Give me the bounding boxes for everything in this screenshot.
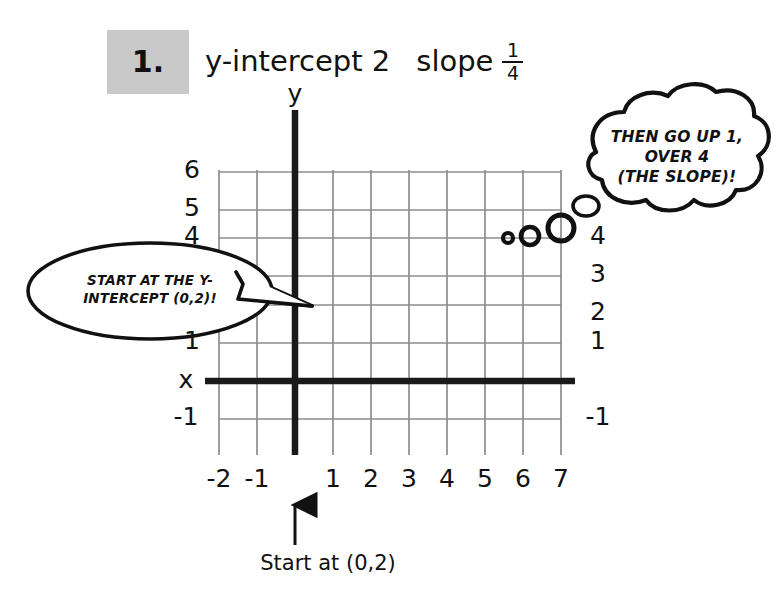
bottom-caption-text: Start at (0,2) — [260, 551, 396, 575]
y-tick-left-4: 4 — [172, 221, 212, 250]
y-tick-left-6: 6 — [172, 155, 212, 184]
x-tick-2: 2 — [351, 464, 391, 493]
y-axis-label: y — [281, 79, 309, 108]
x-tick-3: 3 — [389, 464, 429, 493]
y-tick-right-2: 2 — [578, 297, 618, 326]
x-tick-1: 1 — [313, 464, 353, 493]
cloud-bubble-line2: OVER 4 — [588, 147, 766, 167]
left-bubble-line2: INTERCEPT (0,2)! — [50, 290, 250, 307]
x-tick-6: 6 — [503, 464, 543, 493]
grid-vertical-lines — [219, 170, 561, 455]
cloud-bubble-line3: (THE SLOPE)! — [588, 167, 766, 187]
y-tick-left-1: 1 — [172, 326, 212, 355]
cloud-bubble-line1: THEN GO UP 1, — [588, 127, 766, 147]
x-tick-7: 7 — [541, 464, 581, 493]
left-bubble-line1: START AT THE Y- — [50, 272, 250, 289]
x-tick-neg2: -2 — [199, 464, 239, 493]
y-tick-left-neg1: -1 — [166, 402, 206, 431]
y-tick-left-5: 5 — [172, 193, 212, 222]
y-tick-right-3: 3 — [578, 259, 618, 288]
bottom-caption: Start at (0,2) — [0, 551, 776, 575]
worksheet-canvas: 1. y-intercept 2 slope 1 4 — [0, 0, 776, 592]
plotted-points — [503, 215, 574, 245]
x-axis-label: x — [172, 365, 200, 394]
x-tick-4: 4 — [427, 464, 467, 493]
x-tick-neg1: -1 — [237, 464, 277, 493]
x-tick-5: 5 — [465, 464, 505, 493]
y-tick-right-1: 1 — [578, 326, 618, 355]
y-tick-right-neg1: -1 — [578, 402, 618, 431]
y-tick-right-4: 4 — [578, 221, 618, 250]
